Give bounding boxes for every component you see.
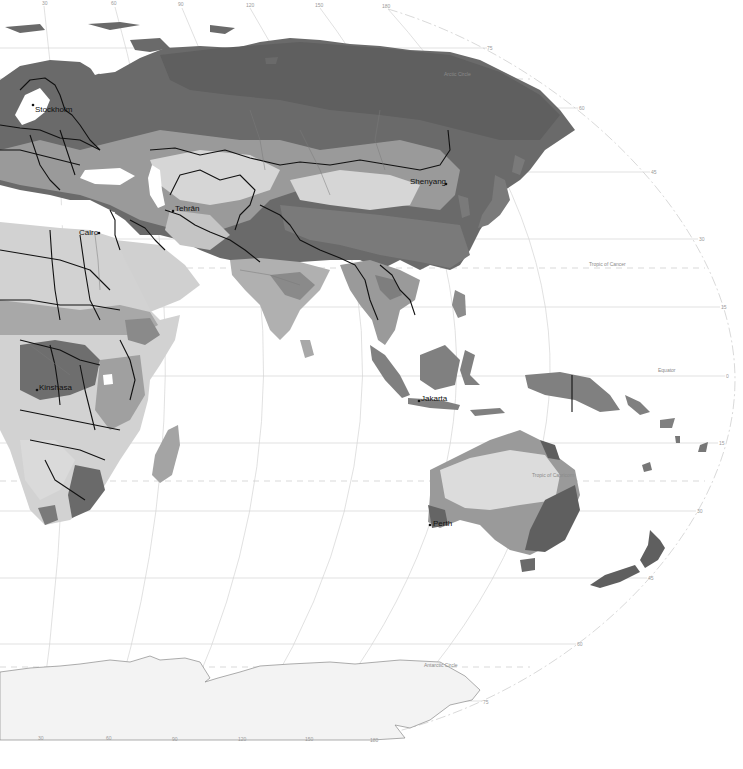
tropic-of-cancer-label: Tropic of Cancer xyxy=(589,261,626,267)
arctic-circle-label: Arctic Circle xyxy=(444,71,471,77)
lat-label-60s: 60 xyxy=(577,641,583,647)
lat-label-30n: 30 xyxy=(699,236,705,242)
city-dot-perth xyxy=(429,524,432,527)
tick-top-60: 60 xyxy=(111,0,117,6)
pacific-islands xyxy=(642,436,708,472)
lat-label-30s: 30 xyxy=(697,508,703,514)
lat-label-15s: 15 xyxy=(719,440,725,446)
tropic-of-capricorn-label: Tropic of Capricorn xyxy=(532,472,575,478)
tick-bottom-30: 30 xyxy=(38,735,44,741)
tick-top-30: 30 xyxy=(42,0,48,6)
tick-top-150: 150 xyxy=(315,2,324,8)
tick-bottom-180: 180 xyxy=(370,737,379,743)
equator-label: Equator xyxy=(658,367,676,373)
tick-top-90: 90 xyxy=(178,1,184,7)
city-label-tehran: Tehrān xyxy=(175,204,199,213)
city-dot-stockholm xyxy=(32,104,35,107)
lat-label-75n: 75 xyxy=(487,45,493,51)
city-dot-kinshasa xyxy=(36,389,39,392)
tick-top-120: 120 xyxy=(246,2,255,8)
tick-bottom-120: 120 xyxy=(238,736,247,742)
lat-label-45s: 45 xyxy=(648,575,654,581)
city-label-perth: Perth xyxy=(433,519,452,528)
city-label-jakarta: Jakarta xyxy=(421,394,448,403)
city-label-shenyang: Shenyang xyxy=(410,177,446,186)
tick-bottom-60: 60 xyxy=(106,735,112,741)
antarctica xyxy=(0,656,480,740)
antarctic-circle-label: Antarctic Circle xyxy=(424,662,458,668)
city-label-cairo: Cairo xyxy=(79,228,99,237)
tick-top-180: 180 xyxy=(382,3,391,9)
lat-label-15n: 15 xyxy=(721,304,727,310)
lat-label-0: 0 xyxy=(726,373,729,379)
world-map: 30 60 90 120 150 180 30 60 90 120 150 18… xyxy=(0,0,743,769)
tick-bottom-90: 90 xyxy=(172,736,178,742)
landmass-indonesia xyxy=(370,345,675,428)
city-label-stockholm: Stockholm xyxy=(35,105,73,114)
lat-label-60n: 60 xyxy=(579,105,585,111)
lat-label-45n: 45 xyxy=(651,169,657,175)
city-dot-tehran xyxy=(172,210,175,213)
tick-bottom-150: 150 xyxy=(305,736,314,742)
top-longitude-ticks: 30 60 90 120 150 180 xyxy=(42,0,391,9)
landmass-australia xyxy=(428,430,580,572)
lat-label-75s: 75 xyxy=(483,699,489,705)
landmass-new-zealand xyxy=(590,530,665,588)
city-label-kinshasa: Kinshasa xyxy=(39,383,72,392)
city-dot-jakarta xyxy=(418,400,421,403)
